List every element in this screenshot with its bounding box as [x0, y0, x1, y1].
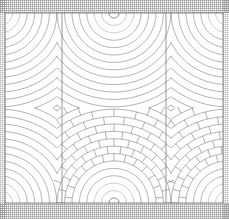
arch-pattern-drawing: [0, 0, 229, 219]
figure-root: [0, 0, 229, 219]
